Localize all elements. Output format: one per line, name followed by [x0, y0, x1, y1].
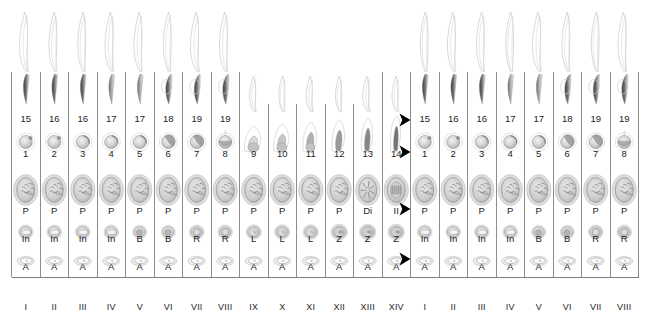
early-spermatid-row-label: 11: [306, 148, 316, 159]
spermatocyte-row-label: P: [108, 205, 114, 216]
spermatocyte-row-label: P: [422, 205, 428, 216]
late-spermatid-row-label: 16: [448, 113, 459, 124]
cycle-map-svg: 1516161717181919151616171718191912345678…: [0, 0, 649, 321]
spermatocyte-row-label: P: [194, 205, 200, 216]
spermatocyte-row-label: P: [450, 205, 456, 216]
young-spermatocyte-row-label: In: [421, 233, 429, 244]
spermatogonia-row-label: A: [450, 261, 457, 272]
late-spermatid-row-label: 17: [505, 113, 516, 124]
spermatocyte-row-label: P: [507, 205, 513, 216]
spermatogonia-row-label: A: [137, 261, 144, 272]
late-spermatid-row-label: 15: [419, 113, 430, 124]
spermatogonia-row-label: A: [507, 261, 514, 272]
spermatogonia-row-label: A: [279, 261, 286, 272]
stage-label: XIII: [361, 302, 375, 312]
early-spermatid-row-label: 2: [451, 148, 456, 159]
late-spermatid-row-label: 16: [476, 113, 487, 124]
young-spermatocyte-row-label: Z: [393, 233, 399, 244]
young-spermatocyte-row-label: B: [137, 233, 143, 244]
stage-label: I: [24, 302, 27, 312]
early-spermatid-row-label: 2: [52, 148, 57, 159]
stage-label: VII: [191, 302, 203, 312]
spermatocyte-row-label: P: [336, 205, 342, 216]
spermatogonia-row-label: A: [593, 261, 600, 272]
early-spermatid-row-label: 7: [194, 148, 199, 159]
spermatocyte-row-label: P: [564, 205, 570, 216]
young-spermatocyte-row-label: In: [50, 233, 58, 244]
stage-label: VIII: [218, 302, 232, 312]
spermatogonia-row-label: A: [536, 261, 543, 272]
early-spermatid-row-label: 1: [422, 148, 427, 159]
early-spermatid-row-label: 8: [223, 148, 228, 159]
spermatogonia-row-label: A: [194, 261, 201, 272]
young-spermatocyte-row-label: In: [79, 233, 87, 244]
spermatocyte-row-label: P: [23, 205, 29, 216]
cycle-arrow: [400, 114, 411, 127]
spermatocyte-row-label: P: [137, 205, 143, 216]
spermatogonia-row-label: A: [393, 261, 400, 272]
stage-label: XII: [333, 302, 345, 312]
early-spermatid-row-label: 3: [479, 148, 484, 159]
late-spermatid-row-label: 16: [77, 113, 88, 124]
spermatogonia-row-label: A: [251, 261, 258, 272]
young-spermatocyte-row-label: In: [478, 233, 486, 244]
spermatocyte-row-label: Di: [363, 205, 372, 216]
young-spermatocyte-row-label: Z: [336, 233, 342, 244]
spermatogenesis-cycle-figure: 1516161717181919151616171718191912345678…: [0, 0, 649, 321]
late-spermatid-row-label: 19: [619, 113, 630, 124]
stage-label: IV: [107, 302, 116, 312]
stage-label: IX: [249, 302, 258, 312]
stage-label: V: [137, 302, 143, 312]
early-spermatid-row-label: 6: [565, 148, 570, 159]
spermatogonia-row-label: A: [222, 261, 229, 272]
stage-label: VIII: [617, 302, 631, 312]
stage-label: XIV: [389, 302, 404, 312]
early-spermatid-row-label: 12: [334, 148, 345, 159]
spermatogonia-row-label: A: [336, 261, 343, 272]
stage-label: VI: [164, 302, 173, 312]
late-spermatid-row-label: 19: [590, 113, 601, 124]
spermatocyte-row-label: P: [593, 205, 599, 216]
spermatogonia-row-label: A: [564, 261, 571, 272]
spermatocyte-row-label: P: [251, 205, 257, 216]
spermatogonia-row-label: A: [621, 261, 628, 272]
young-spermatocyte-row-label: Z: [365, 233, 371, 244]
young-spermatocyte-row-label: L: [308, 233, 313, 244]
grid-lines: [12, 72, 639, 277]
stage-label: VII: [590, 302, 602, 312]
early-spermatid-row-label: 3: [80, 148, 85, 159]
early-spermatid-row-label: 8: [622, 148, 627, 159]
cycle-arrow: [400, 203, 411, 216]
early-spermatid-row-label: 10: [277, 148, 288, 159]
late-spermatid-row-label: 17: [134, 113, 145, 124]
young-spermatocyte-row-label: B: [564, 233, 570, 244]
young-spermatocyte-row-label: R: [222, 233, 229, 244]
spermatocyte-row-label: P: [165, 205, 171, 216]
young-spermatocyte-row-label: B: [165, 233, 171, 244]
spermatogonia-row-label: A: [165, 261, 172, 272]
stage-label: IV: [506, 302, 515, 312]
spermatocyte-row-label: P: [479, 205, 485, 216]
spermatogonia-row-label: A: [80, 261, 87, 272]
stage-label: XI: [306, 302, 315, 312]
early-spermatid-row-label: 7: [593, 148, 598, 159]
late-spermatid-row-label: 17: [533, 113, 544, 124]
spermatogonia-row-label: A: [51, 261, 58, 272]
young-spermatocyte-row-label: L: [251, 233, 256, 244]
early-spermatid-row-label: 5: [536, 148, 541, 159]
spermatocyte-row-label: P: [621, 205, 627, 216]
late-spermatid-row-label: 19: [220, 113, 231, 124]
spermatocyte-row-label: P: [80, 205, 86, 216]
early-spermatid-row-label: 6: [166, 148, 171, 159]
young-spermatocyte-row-label: In: [449, 233, 457, 244]
young-spermatocyte-row-label: R: [592, 233, 599, 244]
young-spermatocyte-row-label: R: [193, 233, 200, 244]
young-spermatocyte-row-label: B: [536, 233, 542, 244]
late-spermatid-row-label: 18: [562, 113, 573, 124]
late-spermatid-row-label: 18: [163, 113, 174, 124]
stage-label: II: [52, 302, 57, 312]
young-spermatocyte-row-label: In: [22, 233, 30, 244]
spermatogonia-row-label: A: [479, 261, 486, 272]
early-spermatid-row-label: 1: [23, 148, 28, 159]
early-spermatid-row-label: 14: [391, 148, 402, 159]
